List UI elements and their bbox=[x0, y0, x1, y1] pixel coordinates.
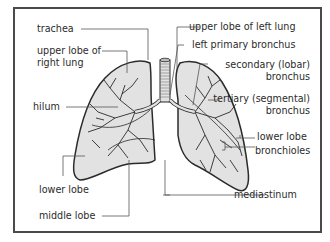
label-mediastinum: mediastinum bbox=[234, 189, 297, 201]
label-middle-lobe: middle lobe bbox=[39, 210, 95, 222]
label-upper-lobe-left: upper lobe of left lung bbox=[189, 21, 296, 33]
trachea-shape bbox=[160, 60, 170, 102]
label-left-primary-bronchus: left primary bronchus bbox=[192, 39, 295, 51]
right-lung bbox=[74, 61, 155, 180]
label-hilum: hilum bbox=[33, 101, 60, 113]
label-trachea: trachea bbox=[37, 23, 74, 35]
label-lower-lobe-right: lower lobe bbox=[39, 184, 89, 196]
label-secondary-bronchus-line1: secondary (lobar) bbox=[225, 59, 310, 71]
label-upper-lobe-right-line2: right lung bbox=[37, 57, 84, 69]
label-bronchioles: bronchioles bbox=[255, 145, 310, 157]
lung-illustration bbox=[0, 0, 330, 242]
label-lower-lobe-left: lower lobe bbox=[257, 131, 307, 143]
label-secondary-bronchus-line2: bronchus bbox=[266, 71, 310, 83]
label-tertiary-bronchus-line2: bronchus bbox=[266, 105, 310, 117]
label-upper-lobe-right-line1: upper lobe of bbox=[37, 45, 101, 57]
label-tertiary-bronchus-line1: tertiary (segmental) bbox=[213, 93, 310, 105]
